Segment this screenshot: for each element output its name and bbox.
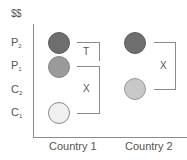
country1-c1-marker — [48, 102, 70, 124]
bracket-x2-label: X — [160, 60, 167, 71]
y-tick-p1: P1 — [11, 59, 22, 75]
y-axis-line — [33, 24, 34, 138]
bracket-x1-label: X — [83, 83, 90, 94]
country1-p1-marker — [48, 56, 70, 78]
bracket-t-top — [77, 42, 100, 43]
y-tick-c2: C2 — [11, 83, 22, 99]
bracket-x1-bottom — [77, 113, 100, 114]
y-axis-title: $$ — [11, 8, 21, 19]
bracket-t-side — [99, 42, 100, 61]
bracket-x1-top — [77, 66, 100, 67]
y-tick-c1: C1 — [11, 106, 22, 122]
bracket-t-label: T — [83, 46, 89, 57]
x-axis-line — [33, 137, 187, 138]
bracket-x1-side — [99, 66, 100, 114]
bracket-x2-bottom — [154, 89, 176, 90]
country1-p2-marker — [48, 32, 70, 54]
y-tick-p2: P2 — [11, 36, 22, 52]
country2-p2-marker — [124, 32, 146, 54]
bracket-x2-side — [175, 42, 176, 90]
x-label-country1: Country 1 — [49, 140, 97, 152]
country2-c2-marker — [124, 78, 146, 100]
bracket-x2-top — [154, 42, 176, 43]
x-label-country2: Country 2 — [125, 140, 173, 152]
